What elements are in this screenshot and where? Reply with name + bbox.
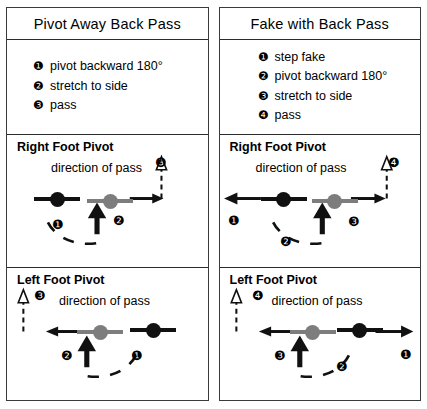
list-item: ❷ pivot backward 180° (220, 67, 421, 86)
list-item: ❶ pivot backward 180° (7, 57, 208, 76)
step-badge-icon: ❸ (258, 90, 269, 102)
section-right-foot-pivot: Right Foot Pivot direction of pass (7, 135, 208, 267)
step-label: pivot backward 180° (275, 67, 388, 86)
panel-pivot-away-back-pass: Pivot Away Back Pass ❶ pivot backward 18… (6, 7, 209, 401)
foot-circle (103, 194, 118, 209)
step-badge-icon: ❹ (258, 109, 269, 121)
foot-circle (327, 194, 342, 209)
step-badge-icon: ❶ (258, 51, 269, 63)
panel-title: Pivot Away Back Pass (7, 8, 208, 40)
pass-badge-icon: ❸ (155, 157, 167, 170)
step-label: pass (50, 96, 76, 115)
foot-circle (276, 192, 291, 207)
list-item: ❸ stretch to side (220, 87, 421, 106)
step-badge-icon: ❶ (52, 219, 64, 232)
step-badge-icon: ❷ (258, 70, 269, 82)
step-badge-icon: ❶ (400, 349, 412, 362)
stretch-arrowhead-icon (46, 327, 58, 337)
step-badge-icon: ❷ (280, 236, 292, 249)
pivot-step-arrowhead-icon (290, 335, 308, 351)
step-badge-icon: ❸ (274, 350, 286, 363)
pass-arrowhead-icon (18, 290, 28, 303)
foot-circle (352, 323, 367, 338)
list-item: ❹ pass (220, 106, 421, 125)
step-label: pivot backward 180° (50, 57, 163, 76)
panel-fake-with-back-pass: Fake with Back Pass ❶ step fake ❷ pivot … (219, 7, 422, 401)
steps-list: ❶ step fake ❷ pivot backward 180° ❸ stre… (220, 40, 421, 135)
pass-arrowhead-icon (231, 290, 241, 303)
step-badge-icon: ❸ (348, 216, 360, 229)
step-badge-icon: ❷ (336, 361, 348, 374)
diagram-sheet: Pivot Away Back Pass ❶ pivot backward 18… (0, 0, 427, 409)
list-item: ❷ stretch to side (7, 77, 208, 96)
step-label: stretch to side (275, 87, 353, 106)
foot-circle (146, 323, 161, 338)
step-label: stretch to side (50, 77, 128, 96)
pivot-step-arrowhead-icon (78, 335, 96, 351)
step-badge-icon: ❷ (113, 215, 125, 228)
stretch-arrowhead-icon (374, 194, 385, 204)
step-badge-icon: ❶ (228, 215, 240, 228)
pass-badge-icon: ❸ (34, 290, 46, 303)
step-fake-arrowhead-icon (224, 193, 237, 205)
section-left-foot-pivot: Left Foot Pivot direction of pass (220, 267, 421, 400)
step-badge-icon: ❷ (61, 350, 73, 363)
step-badge-icon: ❸ (33, 99, 44, 111)
panel-title: Fake with Back Pass (220, 8, 421, 40)
foot-circle (93, 325, 108, 340)
list-item: ❶ step fake (220, 48, 421, 67)
step-label: step fake (275, 48, 326, 67)
step-badge-icon: ❶ (131, 350, 143, 363)
step-fake-arrowhead-icon (401, 326, 413, 338)
list-item: ❸ pass (7, 96, 208, 115)
pivot-arc (83, 355, 136, 376)
pass-badge-icon: ❹ (388, 157, 400, 170)
foot-circle (50, 192, 65, 207)
stretch-arrowhead-icon (258, 327, 270, 337)
step-badge-icon: ❶ (33, 60, 44, 72)
section-right-foot-pivot: Right Foot Pivot direction of pass (220, 135, 421, 267)
steps-list: ❶ pivot backward 180° ❷ stretch to side … (7, 40, 208, 135)
step-badge-icon: ❷ (33, 80, 44, 92)
foot-circle (305, 325, 320, 340)
pass-badge-icon: ❹ (252, 290, 264, 303)
step-label: pass (275, 106, 301, 125)
section-left-foot-pivot: Left Foot Pivot direction of pass ❸ ❷ (7, 267, 208, 400)
